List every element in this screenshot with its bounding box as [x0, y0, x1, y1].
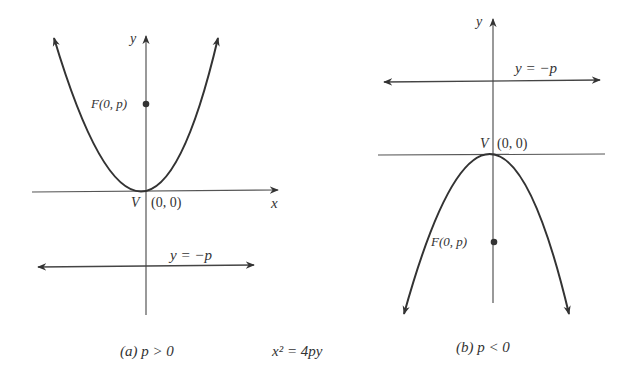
y-axis-label-b: y: [476, 15, 482, 29]
vertex-coords-a: (0, 0): [151, 196, 181, 210]
x-axis-a: [32, 190, 278, 192]
parabola-a: [54, 38, 218, 192]
vertex-label-b: V: [480, 137, 489, 151]
focus-point-b: [491, 239, 498, 246]
parabola-diagram-canvas: [0, 0, 631, 387]
equation-label: x² = 4py: [272, 344, 322, 359]
directrix-label-a: y = −p: [170, 248, 212, 263]
caption-a: (a) p > 0: [120, 344, 174, 359]
parabola-b: [404, 154, 569, 314]
x-axis-label-a: x: [271, 196, 278, 211]
directrix-a: [38, 265, 254, 267]
panel-b: [378, 19, 605, 314]
y-axis-label-a: y: [130, 32, 136, 46]
vertex-label-a: V: [131, 196, 140, 210]
panel-a: [32, 36, 278, 315]
focus-label-b: F(0, p): [431, 235, 467, 248]
focus-label-a: F(0, p): [91, 97, 127, 110]
focus-point-a: [143, 101, 150, 108]
caption-b: (b) p < 0: [456, 340, 510, 355]
vertex-coords-b: (0, 0): [497, 137, 527, 151]
directrix-b: [384, 80, 600, 82]
directrix-label-b: y = −p: [515, 61, 557, 76]
